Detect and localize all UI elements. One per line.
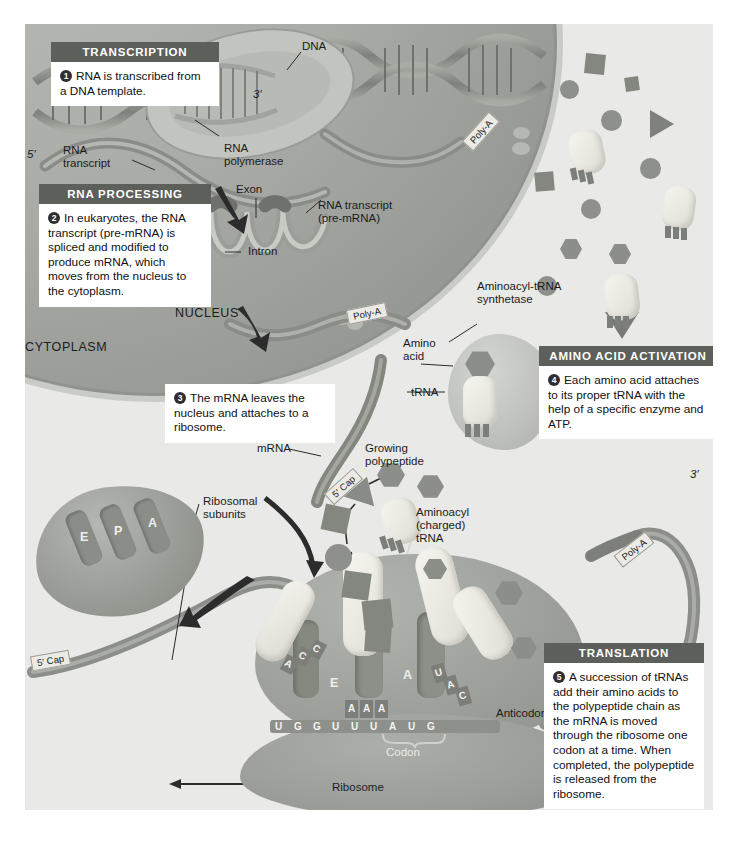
label-aminoacyl-charged-trna: Aminoacyl (charged) tRNA — [416, 506, 469, 545]
label-codon: Codon — [386, 746, 420, 759]
label-ribosome: Ribosome — [332, 781, 384, 794]
label-5prime-left: 5′ — [27, 148, 36, 161]
free-trna — [603, 272, 642, 321]
label-3prime-top: 3′ — [253, 88, 262, 101]
callout-amino-acid-activation-header: AMINO ACID ACTIVATION — [539, 346, 713, 366]
trna-in-synthetase — [463, 376, 497, 428]
callout-rna-processing-header: RNA PROCESSING — [39, 184, 211, 204]
callout-translation: TRANSLATION 5A succession of tRNAs add t… — [544, 643, 704, 809]
step-number-2: 2 — [48, 212, 60, 224]
label-nucleus: NUCLEUS — [175, 307, 239, 320]
callout-transcription-header: TRANSCRIPTION — [51, 42, 219, 62]
label-rna-transcript: RNA transcript — [63, 144, 110, 170]
step-number-3: 3 — [174, 392, 186, 404]
callout-transcription: TRANSCRIPTION 1RNA is transcribed from a… — [51, 42, 219, 106]
callout-amino-acid-activation-text: Each amino acid attaches to its proper t… — [548, 373, 703, 431]
label-cytoplasm: CYTOPLASM — [25, 341, 107, 354]
label-trna: tRNA — [411, 386, 438, 399]
label-anticodon: Anticodon — [496, 707, 547, 720]
e-site-label: E — [80, 530, 88, 544]
callout-rna-processing: RNA PROCESSING 2In eukaryotes, the RNA t… — [39, 184, 211, 307]
step-number-4: 4 — [548, 374, 560, 386]
callout-translation-header: TRANSLATION — [544, 643, 704, 663]
mrna-through-ribosome — [270, 720, 500, 733]
a-site-label: A — [148, 516, 157, 530]
callout-translation-body: 5A succession of tRNAs add their amino a… — [544, 663, 704, 809]
callout-transcription-text: RNA is transcribed from a DNA template. — [60, 69, 201, 98]
callout-mrna-leaves-body: 3The mRNA leaves the nucleus and attache… — [165, 384, 335, 443]
callout-rna-processing-text: In eukaryotes, the RNA transcript (pre-m… — [48, 211, 186, 298]
label-ribosomal-subunits: Ribosomal subunits — [203, 495, 257, 521]
label-amino-acid: Amino acid — [403, 337, 436, 363]
ribosome-e-site-label: E — [330, 676, 338, 690]
label-dna: DNA — [302, 40, 326, 53]
label-rna-transcript-pre-mrna: RNA transcript (pre-mRNA) — [318, 199, 392, 225]
label-mrna: mRNA — [257, 442, 291, 455]
label-3prime-right: 3′ — [690, 468, 699, 481]
figure-canvas: E P A E A A C C A — [0, 0, 744, 845]
callout-mrna-leaves-text: The mRNA leaves the nucleus and attaches… — [174, 391, 308, 434]
step-number-5: 5 — [553, 671, 565, 683]
label-exon: Exon — [236, 183, 262, 196]
callout-mrna-leaves: 3The mRNA leaves the nucleus and attache… — [165, 384, 335, 443]
label-growing-polypeptide: Growing polypeptide — [365, 442, 424, 468]
label-aminoacyl-trna-synthetase: Aminoacyl-tRNA synthetase — [477, 280, 561, 306]
illustration-plate: E P A E A A C C A — [25, 24, 713, 810]
callout-amino-acid-activation: AMINO ACID ACTIVATION 4Each amino acid a… — [539, 346, 713, 439]
label-rna-polymerase: RNA polymerase — [224, 142, 283, 168]
step-number-1: 1 — [60, 70, 72, 82]
callout-transcription-body: 1RNA is transcribed from a DNA template. — [51, 62, 219, 106]
callout-translation-text: A succession of tRNAs add their amino ac… — [553, 670, 694, 801]
callout-rna-processing-body: 2In eukaryotes, the RNA transcript (pre-… — [39, 204, 211, 307]
label-intron: Intron — [248, 245, 277, 258]
p-site-label: P — [114, 524, 122, 538]
ribosome-a-site-label: A — [403, 668, 412, 682]
callout-amino-acid-activation-body: 4Each amino acid attaches to its proper … — [539, 366, 713, 439]
